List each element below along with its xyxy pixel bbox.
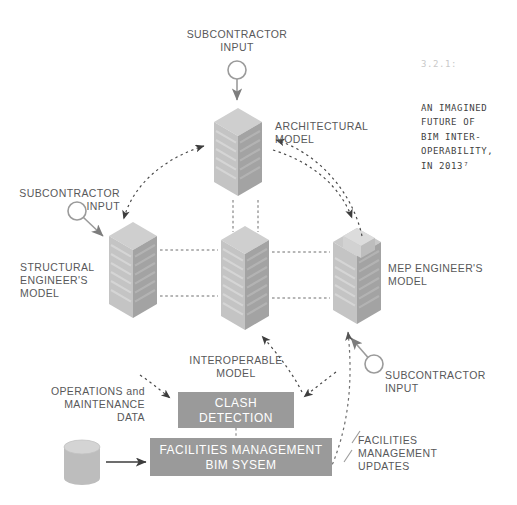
figure-caption-number: 3.2.1: bbox=[421, 57, 517, 72]
figure-caption-body: AN IMAGINED FUTURE OF BIM INTER- OPERABI… bbox=[421, 101, 517, 174]
dashed-arrow-fm-mep bbox=[330, 332, 350, 470]
dashed-arrow-structural-architectural bbox=[124, 146, 204, 218]
building-tower-icon-architectural bbox=[214, 108, 262, 196]
clash-detection-box[interactable] bbox=[178, 392, 294, 428]
fm-updates-tick-marks bbox=[344, 431, 360, 462]
dashed-arrow-mep-clash bbox=[304, 372, 336, 397]
dashed-arrow-clash-interoperable bbox=[262, 336, 302, 392]
building-tower-icon-interoperable bbox=[221, 226, 269, 330]
database-cylinder-icon bbox=[64, 440, 100, 485]
circle-node-icon-left bbox=[68, 202, 103, 236]
fm-bim-system-box[interactable] bbox=[150, 438, 332, 476]
building-tower-icon-structural bbox=[109, 222, 157, 318]
circle-node-icon-top bbox=[228, 61, 246, 100]
circle-node-icon-right bbox=[351, 338, 383, 373]
dashed-arrow-mep-architectural bbox=[276, 140, 362, 236]
dashed-arrow-architectural-mep bbox=[273, 150, 352, 218]
dashed-arrow-structural-clash bbox=[140, 375, 170, 398]
diagram-canvas: CLASH DETECTION FACILITIES MANAGEMENT BI… bbox=[0, 0, 517, 505]
building-tower-flat-roof-icon-mep bbox=[333, 228, 381, 324]
figure-caption: 3.2.1: AN IMAGINED FUTURE OF BIM INTER- … bbox=[421, 28, 517, 202]
